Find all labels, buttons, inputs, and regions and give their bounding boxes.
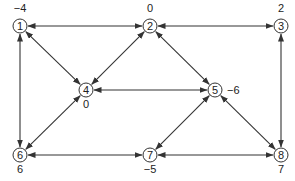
edge-2-5 [156,32,210,85]
node-3: 3 [274,19,288,33]
node-8: 8 [274,148,288,162]
node-id-label: 8 [278,149,284,161]
edge-5-7 [156,96,210,150]
edges-layer [20,26,281,155]
edge-4-6 [26,96,81,150]
node-id-label: 5 [212,84,218,96]
node-id-label: 1 [17,20,23,32]
node-value-label: 0 [83,98,89,110]
node-2: 2 [143,19,157,33]
node-id-label: 4 [83,84,89,96]
node-value-label: 6 [17,163,23,175]
edge-5-8 [221,96,276,150]
node-value-label: −6 [227,84,240,96]
edge-2-4 [92,32,145,85]
node-value-label: −4 [14,2,27,14]
node-id-label: 7 [147,149,153,161]
node-value-label: 2 [278,2,284,14]
node-7: 7 [143,148,157,162]
node-id-label: 2 [147,20,153,32]
network-graph: 12345678 −4020−66−57 [0,0,295,181]
node-id-label: 6 [17,149,23,161]
node-id-label: 3 [278,20,284,32]
node-6: 6 [13,148,27,162]
node-value-label: 7 [278,163,284,175]
node-value-label: 0 [147,2,153,14]
node-1: 1 [13,19,27,33]
edge-1-4 [26,32,81,85]
node-5: 5 [208,83,222,97]
node-4: 4 [79,83,93,97]
node-value-label: −5 [144,163,157,175]
